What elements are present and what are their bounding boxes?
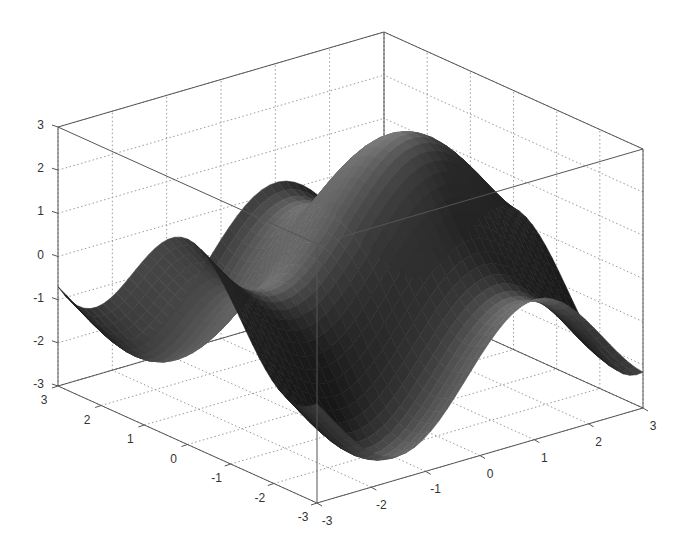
y-tick <box>182 445 188 447</box>
z-tick <box>52 255 58 257</box>
z-tick <box>52 341 58 343</box>
y-tick-label: 1 <box>127 432 134 446</box>
y-axis: 3210-1-2-3 <box>41 386 317 524</box>
x-tick <box>534 440 539 443</box>
y-tick-label: 3 <box>41 393 48 407</box>
z-tick-label: 2 <box>37 161 44 175</box>
surface-mesh <box>58 132 643 461</box>
z-tick-label: -3 <box>33 377 44 391</box>
z-tick <box>52 125 58 127</box>
x-tick-label: -3 <box>322 514 333 528</box>
y-tick <box>225 464 231 466</box>
x-tick-label: -2 <box>376 498 387 512</box>
y-tick <box>52 386 58 388</box>
x-tick <box>643 408 648 411</box>
z-tick-label: -2 <box>33 334 44 348</box>
y-tick-label: -3 <box>298 510 309 524</box>
x-tick <box>317 503 322 506</box>
y-tick <box>268 484 274 486</box>
x-tick-label: 3 <box>650 419 657 433</box>
box-edge <box>384 32 643 149</box>
z-tick-label: 1 <box>37 204 44 218</box>
z-axis: 3210-1-2-3 <box>33 118 58 391</box>
y-tick-label: 0 <box>170 452 177 466</box>
z-tick-label: 0 <box>37 248 44 262</box>
z-tick <box>52 211 58 213</box>
x-tick <box>426 471 431 474</box>
x-tick-label: 0 <box>487 467 494 481</box>
z-tick-label: 3 <box>37 118 44 132</box>
x-tick <box>589 424 594 427</box>
box-edge <box>58 32 384 127</box>
y-tick-label: -2 <box>254 491 265 505</box>
z-tick <box>52 384 58 386</box>
y-tick-label: -1 <box>211 471 222 485</box>
y-tick <box>311 503 317 505</box>
y-tick <box>95 406 101 408</box>
x-tick-label: -1 <box>430 482 441 496</box>
x-tick <box>480 456 485 459</box>
surface-plot: 3210-1-2-3 3210-1-2-3 -3-2-10123 <box>0 0 697 556</box>
y-tick <box>138 425 144 427</box>
z-tick <box>52 168 58 170</box>
y-tick-label: 2 <box>84 413 91 427</box>
x-tick <box>371 487 376 490</box>
x-tick-label: 1 <box>541 451 548 465</box>
z-tick-label: -1 <box>33 291 44 305</box>
z-tick <box>52 298 58 300</box>
x-tick-label: 2 <box>595 435 602 449</box>
